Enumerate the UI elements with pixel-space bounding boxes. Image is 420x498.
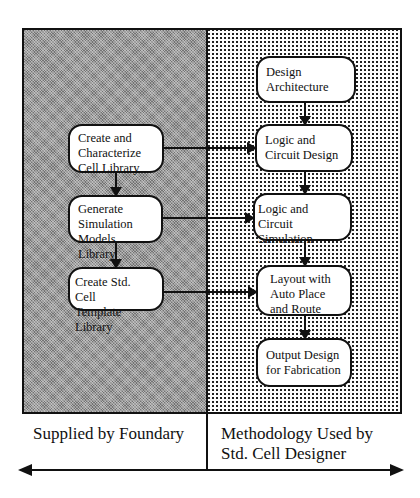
step-create-characterize-cell-library: Create and Characterize Cell Library [68, 124, 164, 173]
step-generate-simulation-models: Generate Simulation Models Library [68, 195, 163, 243]
step-logic-circuit-simulation: Logic and Circuit Simulation [253, 193, 352, 241]
step-logic-circuit-design: Logic and Circuit Design [255, 124, 353, 172]
step-design-architecture: Design Architecture [256, 56, 356, 103]
region-divider [206, 28, 208, 470]
arrow-characterize-to-logic-design [163, 147, 255, 149]
arrow-generate-to-logic-simulation [162, 217, 253, 219]
step-layout-auto-place-route: Layout with Auto Place and Route [256, 265, 352, 316]
arrow-design-to-simulation [304, 171, 306, 193]
arrowhead-left-icon [18, 464, 32, 476]
arrowhead-right-icon [390, 464, 404, 476]
arrow-layout-to-output [304, 315, 306, 338]
caption-methodology-std-cell-designer: Methodology Used by Std. Cell Designer [221, 424, 373, 464]
step-create-std-cell-template: Create Std. Cell Template Library [68, 267, 164, 311]
step-output-design-fabrication: Output Design for Fabrication [256, 338, 352, 387]
caption-supplied-by-foundary: Supplied by Foundary [33, 424, 184, 444]
bottom-axis-line [28, 469, 394, 471]
arrow-template-to-layout [163, 291, 256, 293]
arrow-architecture-to-design [304, 102, 306, 124]
